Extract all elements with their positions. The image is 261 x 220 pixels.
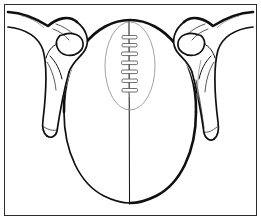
lace-1: [122, 36, 137, 39]
lace-7: [122, 89, 138, 93]
lace-5: [122, 70, 138, 74]
figure-root: Illustration of two hands holding a foot…: [0, 0, 261, 220]
lace-2: [122, 44, 137, 47]
lace-3: [122, 52, 138, 56]
football-center-seam: [129, 20, 130, 204]
lace-4: [122, 61, 138, 65]
lace-6: [122, 79, 138, 83]
football-grip-illustration: Illustration of two hands holding a foot…: [0, 0, 261, 220]
